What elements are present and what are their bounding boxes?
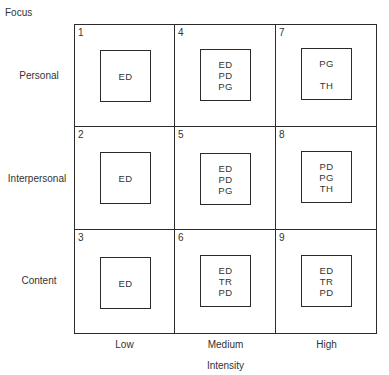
cell-inner-box: ED TR PD: [301, 255, 352, 307]
cell-inner-box: ED PD PG: [200, 49, 251, 101]
column-label-high: High: [276, 339, 377, 350]
y-axis-title: Focus: [5, 7, 32, 18]
cell-item: PG: [319, 58, 334, 69]
column-label-medium: Medium: [175, 339, 276, 350]
cell-item: ED: [118, 173, 132, 184]
cell-item: PD: [218, 70, 232, 81]
cell-number: 8: [279, 129, 285, 140]
cell-inner-box: ED PD PG: [200, 153, 251, 205]
cell-item: ED: [319, 265, 333, 276]
grid-cell-8: 8 PD PG TH: [275, 126, 377, 230]
cell-item: ED: [218, 163, 232, 174]
cell-item: TR: [320, 276, 334, 287]
grid-cell-4: 4 ED PD PG: [174, 24, 276, 127]
cell-item: ED: [118, 71, 132, 82]
grid-cell-3: 3 ED: [74, 229, 175, 334]
column-label-low: Low: [74, 339, 175, 350]
cell-item: TH: [320, 80, 334, 91]
cell-item: ED: [218, 59, 232, 70]
cell-number: 4: [178, 27, 184, 38]
grid-cell-6: 6 ED TR PD: [174, 229, 276, 334]
cell-number: 7: [279, 27, 285, 38]
grid-cell-7: 7 PG TH: [275, 24, 377, 127]
cell-item: ED: [118, 278, 132, 289]
row-label-interpersonal: Interpersonal: [2, 173, 72, 184]
cell-item: PD: [319, 161, 333, 172]
cell-inner-box: ED: [100, 257, 151, 309]
cell-item: PD: [218, 174, 232, 185]
focus-intensity-grid: 1 ED 4 ED PD PG 7 PG TH 2 ED 5 ED PD PG: [74, 24, 377, 334]
cell-inner-box: ED TR PD: [200, 255, 251, 307]
cell-item: TR: [219, 276, 233, 287]
row-label-personal: Personal: [14, 70, 64, 81]
cell-inner-box: PG TH: [301, 48, 352, 100]
grid-cell-2: 2 ED: [74, 126, 175, 230]
cell-item: PG: [218, 185, 233, 196]
cell-item: PD: [319, 287, 333, 298]
cell-number: 5: [178, 129, 184, 140]
cell-item: PG: [319, 172, 334, 183]
cell-number: 3: [78, 232, 84, 243]
grid-cell-1: 1 ED: [74, 24, 175, 127]
x-axis-title: Intensity: [175, 360, 276, 371]
cell-item: PG: [218, 81, 233, 92]
cell-inner-box: ED: [100, 50, 151, 102]
cell-inner-box: PD PG TH: [301, 151, 352, 203]
row-label-content: Content: [14, 275, 64, 286]
cell-number: 6: [178, 232, 184, 243]
cell-number: 1: [78, 27, 84, 38]
cell-inner-box: ED: [100, 152, 151, 204]
grid-cell-5: 5 ED PD PG: [174, 126, 276, 230]
cell-item: TH: [320, 183, 334, 194]
cell-item: ED: [218, 265, 232, 276]
cell-number: 2: [78, 129, 84, 140]
cell-item: PD: [218, 287, 232, 298]
grid-cell-9: 9 ED TR PD: [275, 229, 377, 334]
cell-number: 9: [279, 232, 285, 243]
